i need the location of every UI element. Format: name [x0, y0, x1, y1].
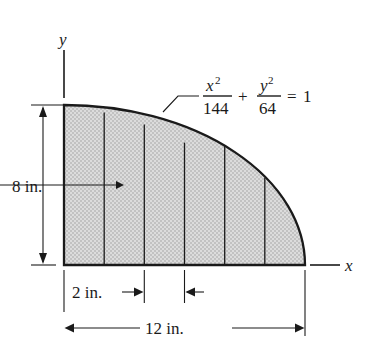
equation-x-denominator: 144	[203, 99, 229, 118]
equation-plus-sign: +	[238, 87, 248, 106]
equation-x-exponent: 2	[215, 74, 221, 86]
y-axis-label: y	[57, 30, 67, 49]
equation-x-variable: x	[205, 76, 214, 95]
height-dimension-label: 8 in.	[12, 177, 42, 196]
equation-y-exponent: 2	[268, 74, 274, 86]
equation-y-denominator: 64	[259, 99, 277, 118]
equation-equals-sign: =	[287, 87, 297, 106]
equation-y-variable: y	[258, 76, 268, 95]
ellipse-equation: x 2 144 + y 2 64 = 1	[203, 74, 312, 118]
quarter-ellipse-diagram: y x 8 in. 2 in. 12 in. x	[0, 0, 372, 356]
strip-dimension-label: 2 in.	[72, 283, 102, 302]
x-axis-label: x	[344, 256, 353, 275]
equation-result: 1	[303, 87, 312, 106]
width-dimension-label: 12 in.	[145, 319, 184, 338]
equation-leader-line	[163, 96, 199, 112]
